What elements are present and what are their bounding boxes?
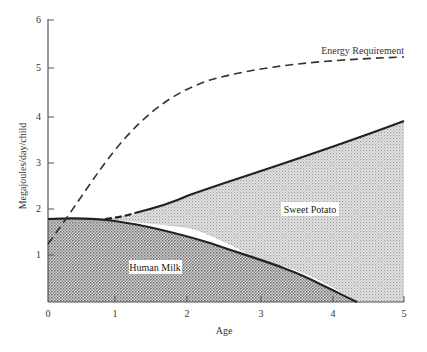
y-tick-label: 5 <box>36 62 41 73</box>
x-tick-label: 1 <box>113 308 118 319</box>
x-axis-title: Age <box>216 325 233 336</box>
x-tick-label: 3 <box>259 308 264 319</box>
y-tick-label: 6 <box>36 14 41 25</box>
x-tick-label: 5 <box>402 308 407 319</box>
energy-requirement-label: Energy Requirement <box>321 45 404 56</box>
y-axis-title: Megajoules/day/child <box>17 123 28 210</box>
x-tick-label: 2 <box>185 308 190 319</box>
sweet-potato-label: Sweet Potato <box>284 204 337 215</box>
y-tick-label: 3 <box>36 157 41 168</box>
x-tick-label: 0 <box>46 308 51 319</box>
y-tick-label: 1 <box>36 249 41 260</box>
y-tick-label: 4 <box>36 111 41 122</box>
x-tick-label: 4 <box>331 308 336 319</box>
y-tick-label: 2 <box>36 203 41 214</box>
human-milk-label: Human Milk <box>129 262 180 273</box>
energy-intake-chart: 1 2 3 4 5 6 0 1 2 3 4 5 Age Megajoules/d… <box>0 0 427 352</box>
